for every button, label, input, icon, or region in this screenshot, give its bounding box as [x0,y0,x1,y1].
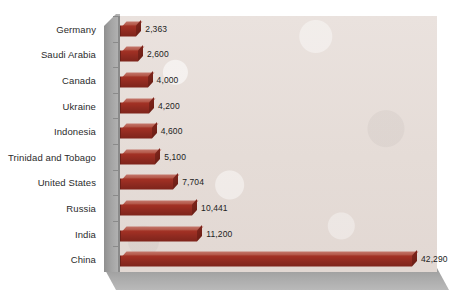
bar-row: Russia10,441 [0,195,449,221]
bar-side-face [152,123,157,139]
bar[interactable] [120,226,202,241]
category-label: Germany [56,23,96,34]
bar-row: China42,290 [0,246,449,272]
axis-tick [113,93,118,94]
axis-tick [113,246,118,247]
bar-value-label: 7,704 [182,177,204,187]
bar-value-label: 5,100 [164,152,186,162]
bar[interactable] [120,21,141,36]
bar-front-face [120,256,412,267]
bar-rows: Germany2,363Saudi Arabia2,600Canada4,000… [0,16,449,272]
axis-tick [113,170,118,171]
bar-value-label: 11,200 [206,229,232,239]
axis-tick [113,16,118,17]
category-label: Canada [62,74,96,85]
axis-tick [113,144,118,145]
bar-front-face [120,25,136,36]
category-label: United States [38,177,96,188]
bar-row: Saudi Arabia2,600 [0,42,449,68]
bar-front-face [120,179,173,190]
category-label: Ukraine [63,100,96,111]
bar-row: Germany2,363 [0,16,449,42]
category-label: Indonesia [54,126,96,137]
bar-side-face [138,46,143,62]
bar-front-face [120,128,152,139]
bar-value-label: 2,363 [145,24,167,34]
bar-side-face [155,148,160,164]
bar-value-label: 4,200 [158,101,180,111]
category-label: India [75,228,96,239]
bar-value-label: 4,600 [161,126,183,136]
bar-front-face [120,153,155,164]
axis-tick [113,221,118,222]
axis-tick [113,42,118,43]
bar-side-face [412,251,417,267]
bar[interactable] [120,47,143,62]
bar-row: Trinidad and Tobago5,100 [0,144,449,170]
category-label: Trinidad and Tobago [8,151,96,162]
bar-value-label: 42,290 [421,254,448,264]
bar-front-face [120,51,138,62]
bar-row: India11,200 [0,221,449,247]
axis-tick [113,67,118,68]
bar-side-face [136,20,141,36]
bar-row: Indonesia4,600 [0,118,449,144]
bar-chart: Germany2,363Saudi Arabia2,600Canada4,000… [0,0,449,293]
bar[interactable] [120,252,417,267]
bar-front-face [120,204,192,215]
bar-row: Canada4,000 [0,67,449,93]
bar[interactable] [120,72,153,87]
bar-value-label: 4,000 [157,75,179,85]
category-label: Saudi Arabia [41,49,96,60]
bar-value-label: 10,441 [201,203,228,213]
bar-front-face [120,76,148,87]
bar[interactable] [120,98,154,113]
bar-side-face [197,225,202,241]
bar[interactable] [120,175,178,190]
axis-tick [113,118,118,119]
bar-front-face [120,230,197,241]
bar-front-face [120,102,149,113]
category-label: Russia [66,202,96,213]
bar-row: Ukraine4,200 [0,93,449,119]
bar[interactable] [120,124,157,139]
bar[interactable] [120,149,160,164]
category-label: China [71,254,96,265]
bar[interactable] [120,200,197,215]
bar-side-face [173,174,178,190]
bar-value-label: 2,600 [147,49,169,59]
bar-row: United States7,704 [0,170,449,196]
bar-side-face [192,199,197,215]
axis-tick [113,195,118,196]
